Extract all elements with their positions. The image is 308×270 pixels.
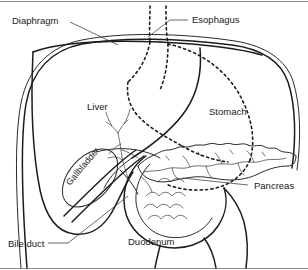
duodenum-outline — [124, 156, 247, 268]
leader-pancreas — [182, 178, 248, 185]
label-diaphragm: Diaphragm — [12, 15, 59, 26]
label-pancreas: Pancreas — [254, 180, 294, 191]
leader-lines — [48, 20, 248, 243]
diaphragm-outline — [16, 34, 299, 268]
anatomy-diagram: Diaphragm Esophagus Liver Stomach Gallbl… — [0, 0, 308, 270]
label-stomach: Stomach — [209, 106, 247, 117]
anatomy-illustration: Diaphragm Esophagus Liver Stomach Gallbl… — [0, 0, 308, 270]
label-bile-duct: Bile duct — [8, 238, 45, 249]
pancreas-outline — [138, 143, 296, 181]
label-duodenum: Duodenum — [128, 236, 175, 247]
label-gallbladder: Gallbladder — [64, 146, 101, 188]
label-esophagus: Esophagus — [192, 14, 240, 25]
bile-duct-outline — [64, 150, 144, 222]
label-liver: Liver — [87, 101, 108, 112]
biliary-tree — [106, 109, 138, 178]
esophagus-outline — [128, 6, 168, 90]
